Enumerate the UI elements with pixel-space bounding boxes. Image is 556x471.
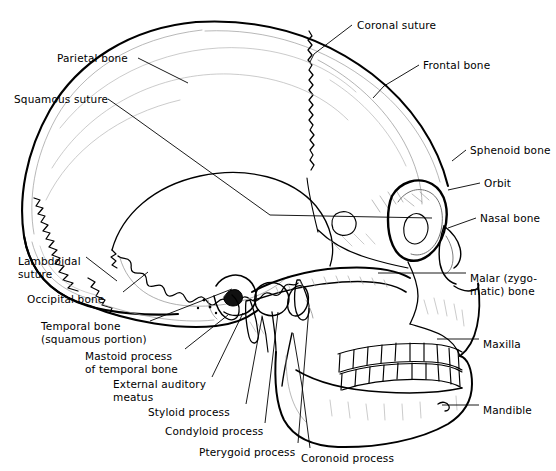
label-styloid-process: Styloid process: [148, 406, 230, 419]
label-malar-zygomatic-bone: Malar (zygo- matic) bone: [470, 272, 537, 297]
label-orbit: Orbit: [484, 177, 511, 190]
label-sphenoid-bone: Sphenoid bone: [470, 144, 551, 157]
label-parietal-bone: Parietal bone: [57, 52, 128, 65]
label-nasal-bone: Nasal bone: [480, 212, 540, 225]
skull-diagram-figure: Parietal boneCoronal sutureFrontal boneS…: [0, 0, 556, 471]
orbit-socket: [388, 180, 447, 260]
sphenoid-bone-region: [318, 190, 408, 268]
cranial-vault: [22, 21, 448, 314]
label-coronal-suture: Coronal suture: [357, 19, 436, 32]
leader-styloid-process: [246, 317, 262, 404]
label-condyloid-process: Condyloid process: [165, 425, 263, 438]
leader-orbit: [448, 183, 480, 190]
leader-squamous-suture: [108, 99, 432, 218]
leader-lambdoidal-suture: [86, 257, 117, 281]
label-squamous-suture: Squamous suture: [14, 93, 108, 106]
label-external-auditory-meatus: External auditory meatus: [113, 378, 206, 403]
squamous-suture-line: [111, 173, 333, 268]
label-frontal-bone: Frontal bone: [423, 59, 490, 72]
condyloid-process: [255, 283, 289, 352]
label-mastoid-process: Mastoid process of temporal bone: [85, 350, 178, 375]
label-temporal-bone: Temporal bone (squamous portion): [41, 320, 147, 345]
leader-occipital-bone: [123, 272, 148, 292]
mandible-body: [275, 333, 472, 447]
leader-external-auditory-meatus: [212, 313, 243, 377]
label-occipital-bone: Occipital bone: [27, 293, 104, 306]
label-lambdoidal-suture: Lambdoidal suture: [18, 255, 81, 280]
leader-coronoid-process: [293, 333, 310, 448]
maxilla-body: [408, 262, 479, 356]
leader-parietal-bone: [138, 58, 188, 83]
upper-teeth: [338, 343, 462, 372]
leader-mastoid-process: [185, 315, 228, 349]
label-coronoid-process: Coronoid process: [301, 452, 394, 465]
leader-sphenoid-bone: [452, 150, 466, 161]
label-maxilla: Maxilla: [483, 338, 521, 351]
leader-nasal-bone: [448, 218, 476, 228]
label-pterygoid-process: Pterygoid process: [199, 446, 295, 459]
label-mandible: Mandible: [483, 404, 532, 417]
